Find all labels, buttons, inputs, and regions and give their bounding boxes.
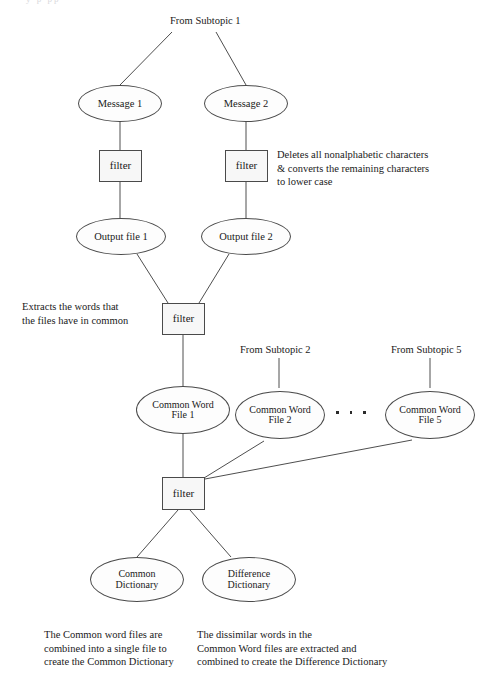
node-message-2[interactable]: Message 2 xyxy=(204,85,288,122)
node-common-word-file-2-line2: File 2 xyxy=(268,415,291,426)
edge-cwf2-to-filter-dict xyxy=(204,441,264,478)
node-filter-dictionary-label: filter xyxy=(173,488,194,500)
node-filter-common-words-label: filter xyxy=(173,313,194,325)
node-difference-dictionary-line2: Dictionary xyxy=(228,580,271,591)
node-common-word-file-5-line2: File 5 xyxy=(418,415,441,426)
diagram-canvas: y p pp From Subtopic 1 From Subtopic 2 F… xyxy=(0,0,480,677)
cropped-header-text: y p pp xyxy=(26,0,61,4)
node-output-file-1[interactable]: Output file 1 xyxy=(76,218,166,255)
node-filter-message-1-label: filter xyxy=(110,160,131,172)
caption-common-dictionary: The Common word files are combined into … xyxy=(44,628,204,669)
note-filter-message: Deletes all nonalphabetic characters & c… xyxy=(277,148,472,189)
label-from-subtopic-2: From Subtopic 2 xyxy=(240,343,311,356)
edge-cwf5-to-filter-dict xyxy=(205,440,412,479)
node-message-1[interactable]: Message 1 xyxy=(78,85,162,122)
edge-filter-dict-to-common-dictionary xyxy=(137,510,178,557)
node-filter-message-2[interactable]: filter xyxy=(225,150,268,182)
node-message-1-label: Message 1 xyxy=(98,98,143,109)
node-common-word-file-2[interactable]: Common Word File 2 xyxy=(235,391,325,439)
node-difference-dictionary[interactable]: Difference Dictionary xyxy=(202,557,296,602)
node-output-file-2-label: Output file 2 xyxy=(219,231,273,242)
node-filter-common-words[interactable]: filter xyxy=(162,303,205,335)
node-output-file-2[interactable]: Output file 2 xyxy=(201,218,291,255)
node-filter-message-2-label: filter xyxy=(236,160,257,172)
node-common-dictionary-line2: Dictionary xyxy=(116,580,159,591)
node-common-word-file-1-line2: File 1 xyxy=(171,410,194,421)
edge-filter-dict-to-difference-dictionary xyxy=(190,510,231,557)
ellipsis-indicator xyxy=(336,411,366,414)
node-message-2-label: Message 2 xyxy=(224,98,269,109)
label-from-subtopic-1: From Subtopic 1 xyxy=(170,14,241,27)
note-filter-common: Extracts the words that the files have i… xyxy=(22,300,162,327)
node-common-word-file-5[interactable]: Common Word File 5 xyxy=(385,391,475,439)
caption-difference-dictionary: The dissimilar words in the Common Word … xyxy=(197,628,462,669)
node-filter-dictionary[interactable]: filter xyxy=(162,477,205,510)
node-common-dictionary-line1: Common xyxy=(118,569,155,580)
ellipsis-dot xyxy=(363,411,366,414)
edge-output1-to-filter-common xyxy=(137,254,168,303)
edge-subtopic1-to-message1 xyxy=(120,32,172,85)
ellipsis-dot xyxy=(350,411,353,414)
label-from-subtopic-5: From Subtopic 5 xyxy=(391,343,462,356)
edge-subtopic1-to-message2 xyxy=(216,32,246,85)
edge-output2-to-filter-common xyxy=(199,254,229,303)
node-filter-message-1[interactable]: filter xyxy=(99,150,142,182)
node-output-file-1-label: Output file 1 xyxy=(94,231,148,242)
ellipsis-dot xyxy=(336,411,339,414)
node-difference-dictionary-line1: Difference xyxy=(228,569,271,580)
node-common-dictionary[interactable]: Common Dictionary xyxy=(90,557,184,602)
node-common-word-file-1[interactable]: Common Word File 1 xyxy=(136,386,230,434)
